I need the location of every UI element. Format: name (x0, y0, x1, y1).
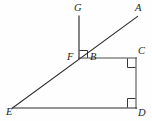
geometry-canvas (0, 0, 152, 121)
vertex-label-e: E (6, 107, 12, 118)
vertex-label-f: F (67, 52, 73, 63)
vertex-label-b: B (90, 52, 96, 63)
vertex-label-c: C (138, 46, 145, 57)
vertex-label-g: G (74, 3, 82, 14)
geometry-diagram: G A F B C E D (0, 0, 152, 121)
vertex-label-a: A (135, 3, 141, 14)
ray-ea-line (13, 17, 138, 109)
vertex-label-d: D (138, 108, 146, 119)
right-angle-marker-d (128, 99, 136, 108)
right-angle-marker-c (128, 59, 136, 68)
